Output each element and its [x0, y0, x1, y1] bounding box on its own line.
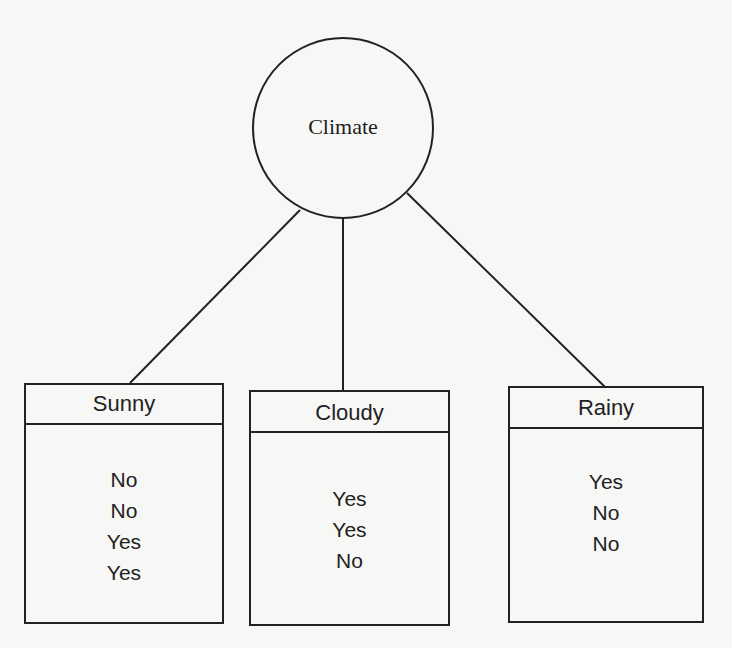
edge-rainy	[407, 193, 605, 387]
outcome-item: No	[510, 528, 702, 559]
leaf-header: Rainy	[510, 388, 702, 429]
outcome-item: No	[251, 545, 448, 576]
leaf-outcomes: No No Yes Yes	[26, 425, 222, 588]
outcome-item: Yes	[510, 466, 702, 497]
edge-sunny	[130, 210, 300, 383]
leaf-header: Cloudy	[251, 392, 448, 433]
outcome-item: Yes	[251, 483, 448, 514]
outcome-item: No	[510, 497, 702, 528]
outcome-item: Yes	[251, 514, 448, 545]
outcome-item: No	[26, 495, 222, 526]
leaf-node-rainy: Rainy Yes No No	[508, 386, 704, 623]
leaf-node-cloudy: Cloudy Yes Yes No	[249, 390, 450, 626]
root-node-label: Climate	[253, 114, 433, 140]
leaf-header: Sunny	[26, 385, 222, 425]
leaf-outcomes: Yes Yes No	[251, 433, 448, 576]
outcome-item: No	[26, 464, 222, 495]
outcome-item: Yes	[26, 526, 222, 557]
leaf-node-sunny: Sunny No No Yes Yes	[24, 383, 224, 624]
outcome-item: Yes	[26, 557, 222, 588]
leaf-outcomes: Yes No No	[510, 429, 702, 559]
